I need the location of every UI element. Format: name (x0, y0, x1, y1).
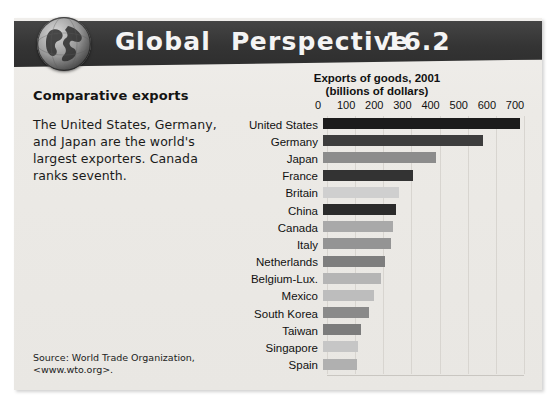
x-tick-400: 400 (421, 99, 439, 111)
x-tick-200: 200 (365, 99, 383, 111)
source-line-1: Source: World Trade Organization, (33, 352, 263, 364)
category-label-china: China (232, 205, 323, 217)
chart-row: Belgium-Lux. (232, 271, 524, 288)
left-text-column: Comparative exports The United States, G… (33, 88, 228, 184)
source-line-2: <www.wto.org>. (33, 364, 263, 376)
bar-track (323, 185, 524, 202)
category-label-singapore: Singapore (232, 342, 323, 354)
category-label-spain: Spain (232, 359, 323, 371)
chart-title: Exports of goods, 2001 (billions of doll… (232, 72, 522, 98)
bar-netherlands (323, 256, 385, 267)
bar-britain (323, 187, 399, 198)
chart-row: Mexico (232, 288, 524, 305)
chart-row: Italy (232, 236, 524, 253)
bar-germany (323, 135, 483, 146)
bar-singapore (323, 341, 358, 352)
category-label-britain: Britain (232, 187, 323, 199)
bar-track (323, 116, 524, 133)
bar-belgium-lux (323, 273, 381, 284)
bar-track (323, 236, 524, 253)
bar-track (323, 357, 524, 374)
chart-row: United States (232, 116, 524, 133)
bar-track (323, 322, 524, 339)
x-tick-100: 100 (337, 99, 355, 111)
category-label-italy: Italy (232, 239, 323, 251)
chart-row: France (232, 168, 524, 185)
category-label-netherlands: Netherlands (232, 256, 323, 268)
category-label-south-korea: South Korea (232, 308, 323, 320)
page-title: Global Perspective (115, 27, 409, 56)
bar-track (323, 271, 524, 288)
bar-track (323, 288, 524, 305)
chart-title-main: Exports of goods, 2001 (232, 72, 522, 85)
title-initial-g: G (115, 27, 136, 56)
bar-japan (323, 152, 436, 163)
chart-rows: United StatesGermanyJapanFranceBritainCh… (232, 116, 524, 376)
bar-canada (323, 221, 393, 232)
chart-row: China (232, 202, 524, 219)
x-tick-300: 300 (393, 99, 411, 111)
chart-row: South Korea (232, 305, 524, 322)
category-label-taiwan: Taiwan (232, 325, 323, 337)
chart-row: Netherlands (232, 254, 524, 271)
bar-france (323, 170, 413, 181)
bar-track (323, 202, 524, 219)
figure-number: 16.2 (385, 27, 451, 56)
gridline-700 (524, 116, 525, 374)
chart-title-sub: (billions of dollars) (232, 85, 522, 98)
chart-row: Canada (232, 219, 524, 236)
bar-track (323, 339, 524, 356)
chart-row: Britain (232, 185, 524, 202)
chart-row: Spain (232, 357, 524, 374)
bar-track (323, 150, 524, 167)
source-note: Source: World Trade Organization, <www.w… (33, 352, 263, 376)
bar-track (323, 219, 524, 236)
bar-united-states (323, 118, 520, 129)
chart-baseline (327, 375, 524, 376)
bar-italy (323, 238, 391, 249)
bar-mexico (323, 290, 374, 301)
category-label-france: France (232, 170, 323, 182)
comparative-exports-heading: Comparative exports (33, 88, 228, 103)
x-tick-500: 500 (450, 99, 468, 111)
bar-south-korea (323, 307, 369, 318)
chart-row: Germany (232, 133, 524, 150)
chart-row: Singapore (232, 339, 524, 356)
bar-track (323, 168, 524, 185)
category-label-belgium-lux: Belgium-Lux. (232, 273, 323, 285)
global-perspective-figure: Global Perspective 16.2 (0, 0, 557, 415)
bar-track (323, 305, 524, 322)
bar-track (323, 254, 524, 271)
comparative-exports-body: The United States, Germany, and Japan ar… (33, 116, 228, 184)
x-tick-0: 0 (315, 99, 321, 111)
x-tick-600: 600 (478, 99, 496, 111)
globe-icon (37, 17, 91, 71)
bar-spain (323, 359, 357, 370)
exports-bar-chart: Exports of goods, 2001 (billions of doll… (232, 72, 532, 372)
bar-track (323, 133, 524, 150)
chart-plot-area: United StatesGermanyJapanFranceBritainCh… (232, 116, 524, 376)
category-label-japan: Japan (232, 153, 323, 165)
title-rest-global: lobal (136, 27, 211, 56)
category-label-mexico: Mexico (232, 290, 323, 302)
bar-taiwan (323, 324, 361, 335)
category-label-germany: Germany (232, 136, 323, 148)
category-label-united-states: United States (232, 119, 323, 131)
title-initial-p: P (231, 27, 250, 56)
x-tick-700: 700 (506, 99, 524, 111)
chart-row: Taiwan (232, 322, 524, 339)
x-axis-tick-labels: 0100200300400500600700 (318, 99, 524, 113)
category-label-canada: Canada (232, 222, 323, 234)
chart-row: Japan (232, 150, 524, 167)
bar-china (323, 204, 396, 215)
